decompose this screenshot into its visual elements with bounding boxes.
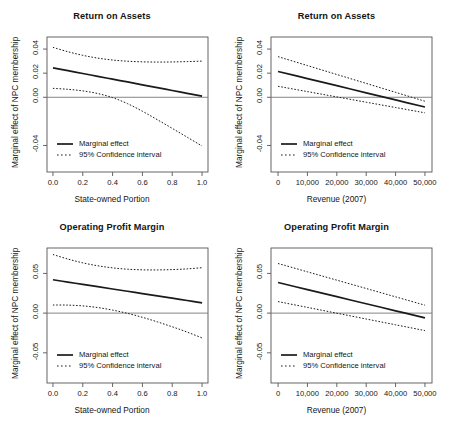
marginal-effects-figure: Return on AssetsMarginal effect95% Confi…: [0, 0, 449, 422]
legend-label-confidence-interval: 95% Confidence interval: [79, 361, 161, 370]
y-tick-label: -0.05: [255, 336, 264, 366]
legend-label-marginal-effect: Marginal effect: [79, 139, 129, 148]
y-tick-label: -0.04: [255, 129, 264, 159]
y-tick-label: 0.00: [255, 81, 264, 111]
marginal-effect-line: [278, 71, 425, 107]
legend-label-confidence-interval: 95% Confidence interval: [79, 150, 161, 159]
ci-line: [278, 302, 425, 331]
x-tick-label: 0.2: [77, 178, 88, 187]
ci-line: [278, 86, 425, 113]
chart-panel-roa-revenue: Return on AssetsMarginal effect95% Confi…: [224, 0, 449, 211]
x-tick-label: 1.0: [197, 178, 208, 187]
y-tick-label: -0.05: [31, 336, 40, 366]
x-axis-label: Revenue (2007): [224, 405, 449, 415]
chart-panel-opm-state: Operating Profit MarginMarginal effect95…: [0, 211, 224, 422]
x-tick-label: 30,000: [355, 389, 378, 398]
y-tick-label: -0.04: [31, 129, 40, 159]
y-tick-label: 0.00: [31, 81, 40, 111]
x-tick-label: 30,000: [355, 178, 378, 187]
x-tick-label: 0.6: [137, 389, 148, 398]
x-tick-label: 50,000: [413, 178, 436, 187]
x-axis-label: Revenue (2007): [224, 194, 449, 204]
y-axis-label: Marginal effect of NPC membership: [234, 37, 244, 168]
x-tick-label: 10,000: [296, 178, 319, 187]
legend-label-confidence-interval: 95% Confidence interval: [303, 150, 385, 159]
chart-panel-roa-state: Return on AssetsMarginal effect95% Confi…: [0, 0, 224, 211]
x-tick-label: 50,000: [413, 389, 436, 398]
y-tick-label: 0.00: [31, 297, 40, 327]
legend-label-marginal-effect: Marginal effect: [303, 350, 353, 359]
x-tick-label: 0.4: [107, 178, 118, 187]
y-axis-label: Marginal effect of NPC membership: [234, 248, 244, 379]
chart-panel-opm-revenue: Operating Profit MarginMarginal effect95…: [224, 211, 449, 422]
marginal-effect-line: [53, 280, 202, 303]
ci-line: [278, 263, 425, 305]
x-tick-label: 0.8: [167, 389, 178, 398]
y-axis-label: Marginal effect of NPC membership: [10, 37, 20, 168]
y-tick-label: 0.05: [255, 257, 264, 287]
x-tick-label: 0: [276, 178, 280, 187]
x-tick-label: 10,000: [296, 389, 319, 398]
ci-line: [53, 255, 202, 270]
x-tick-label: 20,000: [325, 178, 348, 187]
marginal-effect-line: [53, 68, 202, 96]
x-tick-label: 0.8: [167, 178, 178, 187]
legend-label-marginal-effect: Marginal effect: [303, 139, 353, 148]
marginal-effect-line: [278, 283, 425, 318]
ci-line: [53, 305, 202, 338]
legend-label-marginal-effect: Marginal effect: [79, 350, 129, 359]
y-axis-label: Marginal effect of NPC membership: [10, 248, 20, 379]
x-axis-label: State-owned Portion: [0, 194, 224, 204]
legend-label-confidence-interval: 95% Confidence interval: [303, 361, 385, 370]
x-tick-label: 0.0: [48, 389, 59, 398]
x-tick-label: 20,000: [325, 389, 348, 398]
y-tick-label: 0.05: [31, 257, 40, 287]
ci-line: [53, 47, 202, 62]
x-axis-label: State-owned Portion: [0, 405, 224, 415]
ci-line: [278, 57, 425, 102]
x-tick-label: 0.2: [77, 389, 88, 398]
x-tick-label: 0.0: [48, 178, 59, 187]
x-tick-label: 0: [276, 389, 280, 398]
y-tick-label: 0.00: [255, 297, 264, 327]
x-tick-label: 40,000: [384, 389, 407, 398]
x-tick-label: 0.4: [107, 389, 118, 398]
x-tick-label: 40,000: [384, 178, 407, 187]
x-tick-label: 1.0: [197, 389, 208, 398]
x-tick-label: 0.6: [137, 178, 148, 187]
